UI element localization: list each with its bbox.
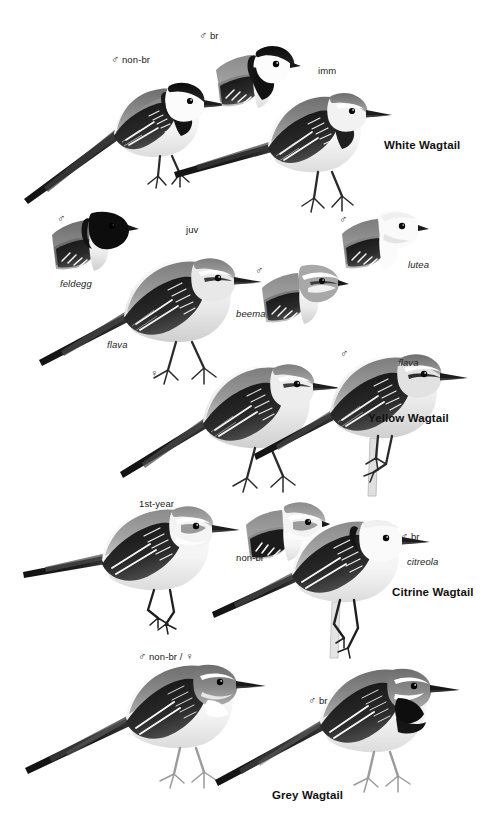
label-white-male-br: ♂ br [199, 30, 219, 42]
label-yellow-female: ♀ [150, 368, 158, 380]
label-yellow-flava-right: flava [398, 358, 419, 368]
label-grey-nonbr-female: ♂ non-br / ♀ [138, 651, 194, 663]
label-yellow-flava-left: flava [107, 340, 128, 350]
label-yellow-feldegg-sex: ♂ [57, 213, 65, 225]
label-yellow-lutea-sex: ♂ [339, 214, 347, 226]
label-white-male-nonbr: ♂ non-br [111, 54, 150, 66]
label-citrine-1st-year: 1st-year [139, 499, 174, 509]
label-yellow-juv: juv [186, 225, 198, 235]
label-yellow-lutea: lutea [408, 260, 429, 270]
bird-yellow-wagtail-male-flava [252, 318, 482, 498]
species-label-grey-wagtail: Grey Wagtail [272, 789, 343, 801]
illustration-plate: ♂ non-br [0, 0, 488, 815]
species-label-citrine-wagtail: Citrine Wagtail [392, 586, 474, 598]
label-citrine-citreola: citreola [407, 557, 438, 567]
bird-citrine-wagtail-male-br [210, 490, 440, 660]
label-yellow-beema-sex: ♂ [255, 265, 263, 277]
label-citrine-nonbr: non-br [236, 553, 264, 563]
label-yellow-male-flava-sex: ♂ [340, 348, 348, 360]
label-grey-male-br: ♂ br [308, 695, 328, 707]
species-label-white-wagtail: White Wagtail [384, 139, 460, 151]
label-citrine-male-br: ♂ br [400, 531, 420, 543]
label-yellow-beema: beema [236, 309, 266, 319]
bird-grey-wagtail-male-br [212, 640, 482, 810]
species-label-yellow-wagtail: Yellow Wagtail [368, 412, 449, 424]
label-white-imm: imm [318, 66, 336, 76]
label-yellow-feldegg: feldegg [60, 279, 92, 289]
